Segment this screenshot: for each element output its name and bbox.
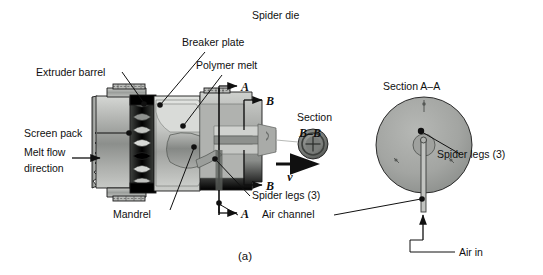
- label-melt-flow-line1: Melt flow: [24, 146, 66, 158]
- leader-dot-screen-pack: [126, 130, 132, 136]
- label-polymer-melt: Polymer melt: [196, 59, 257, 71]
- velocity-symbol: v: [287, 170, 293, 184]
- label-extruder-barrel: Extruder barrel: [36, 66, 105, 78]
- label-air-channel: Air channel: [262, 208, 315, 220]
- figure-caption: (a): [238, 250, 252, 262]
- section-mark-a-top: A: [240, 80, 249, 94]
- label-melt-flow-line2: direction: [24, 162, 64, 174]
- label-mandrel: Mandrel: [113, 208, 151, 220]
- leader-dot-air-channel-right: [419, 196, 425, 202]
- leader-dot-air-channel-left: [216, 200, 222, 206]
- label-breaker-plate: Breaker plate: [182, 36, 245, 48]
- section-mark-b-bottom: B: [265, 179, 274, 193]
- section-cut-band: [216, 150, 223, 190]
- section-mark-b-top: B: [265, 94, 274, 108]
- label-spider-legs-section: Spider legs (3): [437, 148, 505, 160]
- label-spider-die: Spider die: [252, 9, 299, 21]
- label-section-aa: Section A–A: [383, 80, 440, 92]
- leader-dot-mandrel: [191, 144, 197, 150]
- label-section-bb-line1: Section: [297, 111, 332, 123]
- leader-dot-polymer-melt: [180, 123, 186, 129]
- die-exit-channel: [214, 124, 276, 156]
- main-cross-section: [92, 84, 276, 215]
- barrel-bolt-top: [113, 84, 145, 89]
- barrel-bolt-bottom: [113, 196, 145, 201]
- leader-dot-spider-legs-main: [212, 156, 218, 162]
- diagram-canvas: Spider die Breaker plate Polymer melt Ex…: [0, 0, 543, 275]
- label-section-bb-line2: B–B: [298, 126, 321, 140]
- label-air-in: Air in: [459, 246, 483, 258]
- label-spider-legs-main: Spider legs (3): [252, 189, 320, 201]
- bb-leader: [276, 140, 298, 142]
- leader-dot-breaker-plate: [157, 102, 163, 108]
- leader-dot-extruder-barrel: [141, 101, 147, 107]
- section-mark-a-bottom: A: [240, 207, 249, 221]
- leader-dot-spider-legs-section: [418, 128, 424, 134]
- screen-pack: [130, 98, 154, 188]
- figure-spider-die: Spider die Breaker plate Polymer melt Ex…: [0, 0, 543, 275]
- label-screen-pack: Screen pack: [24, 127, 83, 139]
- die-bolt: [204, 88, 230, 93]
